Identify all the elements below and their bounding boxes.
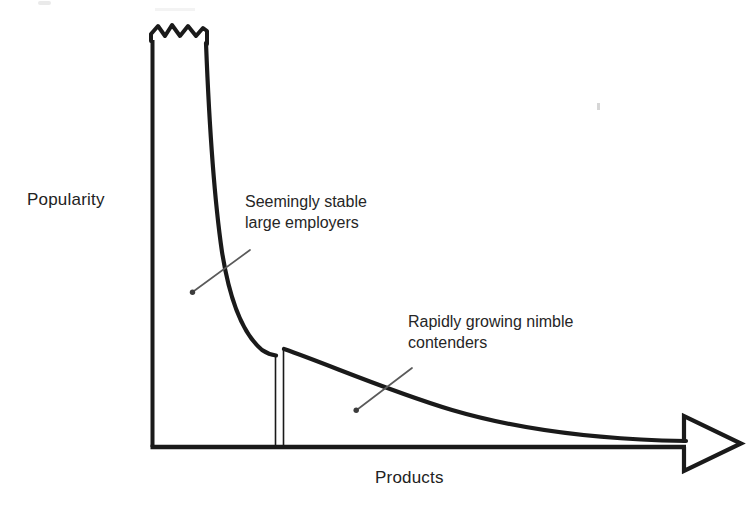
annotation-stable-employers-line-1: Seemingly stable — [245, 192, 367, 213]
x-axis-arrowhead-icon — [684, 416, 741, 471]
scan-artifact-top-left — [38, 1, 51, 5]
curve-tail-nimble-contenders — [284, 349, 686, 441]
leader-dot-stable-employers — [190, 290, 195, 295]
x-axis-label: Products — [375, 468, 444, 488]
y-axis-label: Popularity — [27, 190, 105, 210]
leader-dot-nimble-contenders — [354, 408, 359, 413]
annotation-nimble-contenders: Rapidly growing nimble contenders — [408, 312, 573, 354]
annotation-nimble-contenders-line-1: Rapidly growing nimble — [408, 312, 573, 333]
figure-canvas: Popularity Products Seemingly stable lar… — [0, 0, 754, 514]
scan-artifact-speck — [597, 103, 600, 110]
scan-artifact-top-right — [155, 8, 195, 11]
annotation-stable-employers-line-2: large employers — [245, 213, 367, 234]
chart-svg — [0, 0, 754, 514]
leader-line-nimble-contenders — [358, 368, 412, 409]
annotation-nimble-contenders-line-2: contenders — [408, 333, 573, 354]
y-axis-break-zigzag-icon — [151, 25, 207, 44]
annotation-stable-employers: Seemingly stable large employers — [245, 192, 367, 234]
